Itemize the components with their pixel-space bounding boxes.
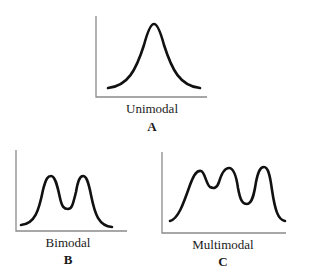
panel-b-label: Bimodal [46, 235, 91, 251]
panel-b-letter: B [64, 252, 73, 268]
panel-c-multimodal-curve [170, 167, 285, 221]
panel-a-letter: A [147, 119, 156, 135]
panel-b-bimodal-curve [21, 176, 112, 227]
panel-c-axes [162, 152, 286, 233]
panel-a-label: Unimodal [126, 101, 178, 117]
panel-c-letter: C [218, 254, 227, 270]
panel-c-label: Multimodal [192, 237, 253, 253]
panel-a-unimodal-curve [108, 24, 200, 88]
